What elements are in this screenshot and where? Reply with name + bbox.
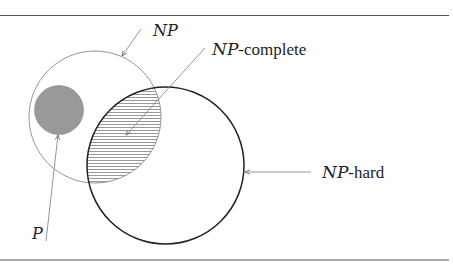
np-complete-label-suffix: -complete xyxy=(238,40,306,59)
np-complete-region xyxy=(87,87,244,244)
np-complete-label-calligraphic: NP xyxy=(211,39,239,59)
p-label: P xyxy=(31,224,43,243)
complexity-classes-diagram: NP NP-complete NP-hard P xyxy=(0,0,453,269)
np-hard-label-suffix: -hard xyxy=(348,163,384,182)
np-hard-label-calligraphic: NP xyxy=(321,162,349,182)
p-label-calligraphic: P xyxy=(31,224,43,243)
np-label-calligraphic: NP xyxy=(152,21,178,40)
np-arrow xyxy=(122,29,141,56)
np-hard-label: NP-hard xyxy=(321,162,385,182)
np-complete-label: NP-complete xyxy=(211,39,306,59)
p-arrow xyxy=(46,135,58,241)
p-circle xyxy=(35,86,84,135)
np-label: NP xyxy=(152,21,178,40)
